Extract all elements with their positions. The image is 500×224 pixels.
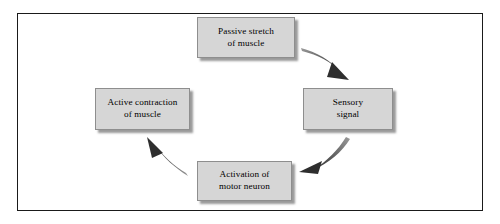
node-sensory-signal-label: Sensory signal <box>333 97 363 121</box>
node-passive-stretch-label: Passive stretch of muscle <box>218 26 274 50</box>
node-active-contraction-label: Active contraction of muscle <box>108 97 178 121</box>
node-activation-motor-neuron-label: Activation of motor neuron <box>219 169 270 193</box>
figure-container: Passive stretch of muscle Sensory signal… <box>0 0 500 224</box>
node-passive-stretch: Passive stretch of muscle <box>197 17 295 58</box>
node-active-contraction: Active contraction of muscle <box>95 88 190 130</box>
node-sensory-signal: Sensory signal <box>303 88 393 130</box>
node-activation-motor-neuron: Activation of motor neuron <box>197 161 292 201</box>
